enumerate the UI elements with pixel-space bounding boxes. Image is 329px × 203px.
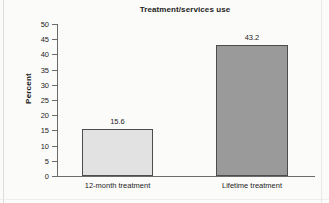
y-tick-40 xyxy=(52,54,57,55)
y-tick-45 xyxy=(52,39,57,40)
y-tick-label-45: 45 xyxy=(26,36,49,44)
plot-area: 0 5 10 15 20 25 30 35 40 45 50 15.6 12-m… xyxy=(0,0,329,203)
y-tick-25 xyxy=(52,100,57,101)
category-label-lifetime-treatment: Lifetime treatment xyxy=(212,182,292,190)
y-tick-label-15: 15 xyxy=(26,127,49,135)
bar-lifetime-treatment xyxy=(216,45,288,176)
y-tick-label-10: 10 xyxy=(26,143,49,151)
bar-12-month-treatment xyxy=(82,129,153,176)
y-tick-10 xyxy=(52,146,57,147)
bar-chart-figure: Treatment/services use Percent 0 5 10 15… xyxy=(0,0,329,203)
y-tick-label-25: 25 xyxy=(26,97,49,105)
x-axis-line xyxy=(57,176,315,177)
y-tick-15 xyxy=(52,130,57,131)
y-tick-label-0: 0 xyxy=(26,173,49,181)
y-tick-20 xyxy=(52,115,57,116)
category-label-12-month-treatment: 12-month treatment xyxy=(77,182,158,190)
y-tick-label-30: 30 xyxy=(26,82,49,90)
y-tick-label-20: 20 xyxy=(26,112,49,120)
y-tick-0 xyxy=(52,176,57,177)
y-tick-label-35: 35 xyxy=(26,67,49,75)
y-axis-line xyxy=(57,24,58,177)
y-tick-label-5: 5 xyxy=(26,158,49,166)
y-tick-50 xyxy=(52,24,57,25)
y-tick-30 xyxy=(52,85,57,86)
y-tick-label-40: 40 xyxy=(26,51,49,59)
y-tick-5 xyxy=(52,161,57,162)
bar-value-lifetime-treatment: 43.2 xyxy=(221,34,283,42)
y-tick-35 xyxy=(52,70,57,71)
y-tick-label-50: 50 xyxy=(26,21,49,29)
bar-value-12-month-treatment: 15.6 xyxy=(87,118,148,126)
